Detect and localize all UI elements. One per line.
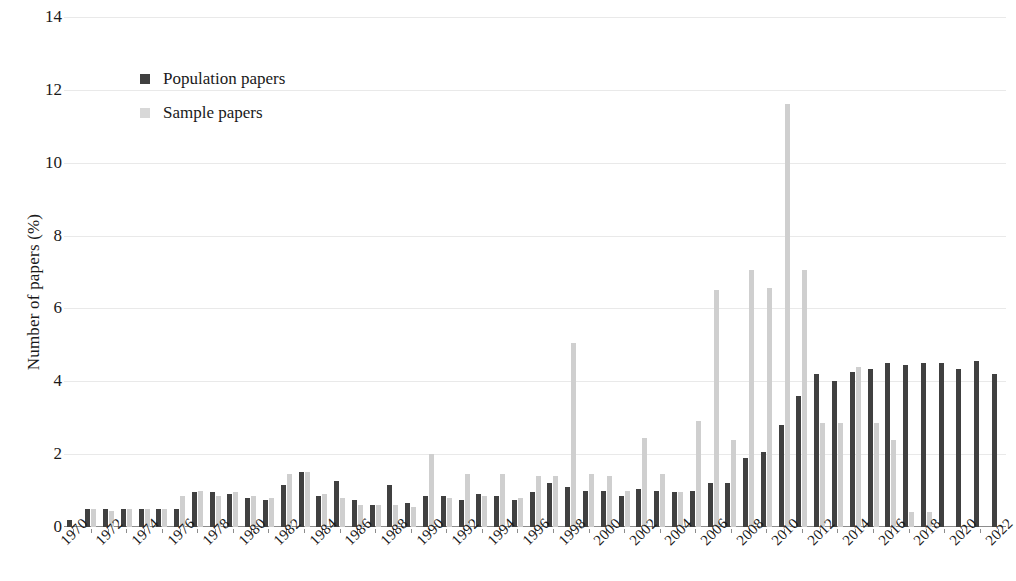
x-axis-tick: 1994 (491, 529, 509, 581)
bar-sample (91, 509, 96, 527)
bar-group (882, 17, 900, 527)
x-axis-tick: 2006 (704, 529, 722, 581)
y-axis-tick-label: 8 (28, 227, 62, 244)
bar-group (295, 17, 313, 527)
bar-sample (731, 440, 736, 527)
bar-population (974, 361, 979, 527)
bar-population (903, 365, 908, 527)
x-axis-tickmark (375, 529, 376, 533)
bar-group (473, 17, 491, 527)
bar-group (722, 17, 740, 527)
x-axis-tick: 1986 (349, 529, 367, 581)
x-axis-tick: 1978 (206, 529, 224, 581)
bar-group (775, 17, 793, 527)
bar-population (725, 483, 730, 527)
x-axis-tick: 2002 (633, 529, 651, 581)
x-axis-tickmark (909, 529, 910, 533)
bar-group (509, 17, 527, 527)
x-axis-tickmark (482, 529, 483, 533)
bar-group (918, 17, 936, 527)
legend-item-population[interactable]: Population papers (140, 62, 285, 96)
bar-sample (518, 498, 523, 527)
bar-population (761, 452, 766, 527)
y-axis-tick-label: 6 (28, 299, 62, 316)
y-axis-tick-label: 12 (28, 81, 62, 98)
x-axis-tickmark (944, 529, 945, 533)
x-axis-tick: 1988 (384, 529, 402, 581)
legend-swatch-sample-icon (140, 108, 150, 118)
bar-population (814, 374, 819, 527)
bar-sample (660, 474, 665, 527)
bar-population (956, 369, 961, 527)
bar-group (580, 17, 598, 527)
x-axis-tick: 1998 (562, 529, 580, 581)
x-axis-tick: 2016 (882, 529, 900, 581)
bar-group (331, 17, 349, 527)
legend-item-sample[interactable]: Sample papers (140, 96, 285, 130)
bar-sample (376, 505, 381, 527)
bar-sample (447, 498, 452, 527)
bar-sample (696, 421, 701, 527)
bar-sample (571, 343, 576, 527)
x-axis-tick: 1974 (135, 529, 153, 581)
bar-group (491, 17, 509, 527)
x-axis-tickmark (802, 529, 803, 533)
bar-sample (269, 498, 274, 527)
bar-population (547, 483, 552, 527)
bar-group (349, 17, 367, 527)
bar-group (953, 17, 971, 527)
x-axis-tickmark (446, 529, 447, 533)
bar-sample (305, 472, 310, 527)
y-axis-tick-label: 10 (28, 154, 62, 171)
bar-group (651, 17, 669, 527)
x-axis-tick: 1976 (171, 529, 189, 581)
bar-population (868, 369, 873, 527)
y-axis: Number of papers (%) 02468101214 (0, 0, 62, 581)
bar-group (313, 17, 331, 527)
x-axis-tickmark (837, 529, 838, 533)
bar-population (939, 363, 944, 527)
bar-sample (874, 423, 879, 527)
x-axis-tick: 2012 (811, 529, 829, 581)
bar-sample (838, 423, 843, 527)
bar-population (708, 483, 713, 527)
bar-group (544, 17, 562, 527)
bar-group (526, 17, 544, 527)
bar-sample (856, 367, 861, 527)
x-axis-tickmark (695, 529, 696, 533)
bar-population (832, 381, 837, 527)
bar-sample (198, 491, 203, 527)
bar-population (992, 374, 997, 527)
x-axis-tick: 1992 (455, 529, 473, 581)
bar-sample (714, 290, 719, 527)
bar-group (864, 17, 882, 527)
bar-group (829, 17, 847, 527)
x-axis-tick: 2008 (740, 529, 758, 581)
bar-group (793, 17, 811, 527)
bar-sample (625, 491, 630, 527)
bar-group (402, 17, 420, 527)
bar-population (334, 481, 339, 527)
bar-sample (411, 507, 416, 527)
x-axis-tickmark (126, 529, 127, 533)
bar-sample (767, 288, 772, 527)
bar-group (366, 17, 384, 527)
x-axis-tick: 1990 (420, 529, 438, 581)
bar-population (743, 458, 748, 527)
bar-sample (482, 496, 487, 527)
x-axis-tickmark (553, 529, 554, 533)
x-axis-tickmark (660, 529, 661, 533)
x-axis-tick: 2014 (846, 529, 864, 581)
bar-group (117, 17, 135, 527)
bar-sample (749, 270, 754, 527)
bar-group (989, 17, 1007, 527)
bar-sample (802, 270, 807, 527)
x-axis-tickmark (766, 529, 767, 533)
y-axis-tick-label: 0 (28, 518, 62, 535)
bar-group (64, 17, 82, 527)
bar-sample (127, 509, 132, 527)
bar-group (686, 17, 704, 527)
x-axis-tickmark (589, 529, 590, 533)
x-axis-tick: 2010 (775, 529, 793, 581)
bar-sample (589, 474, 594, 527)
